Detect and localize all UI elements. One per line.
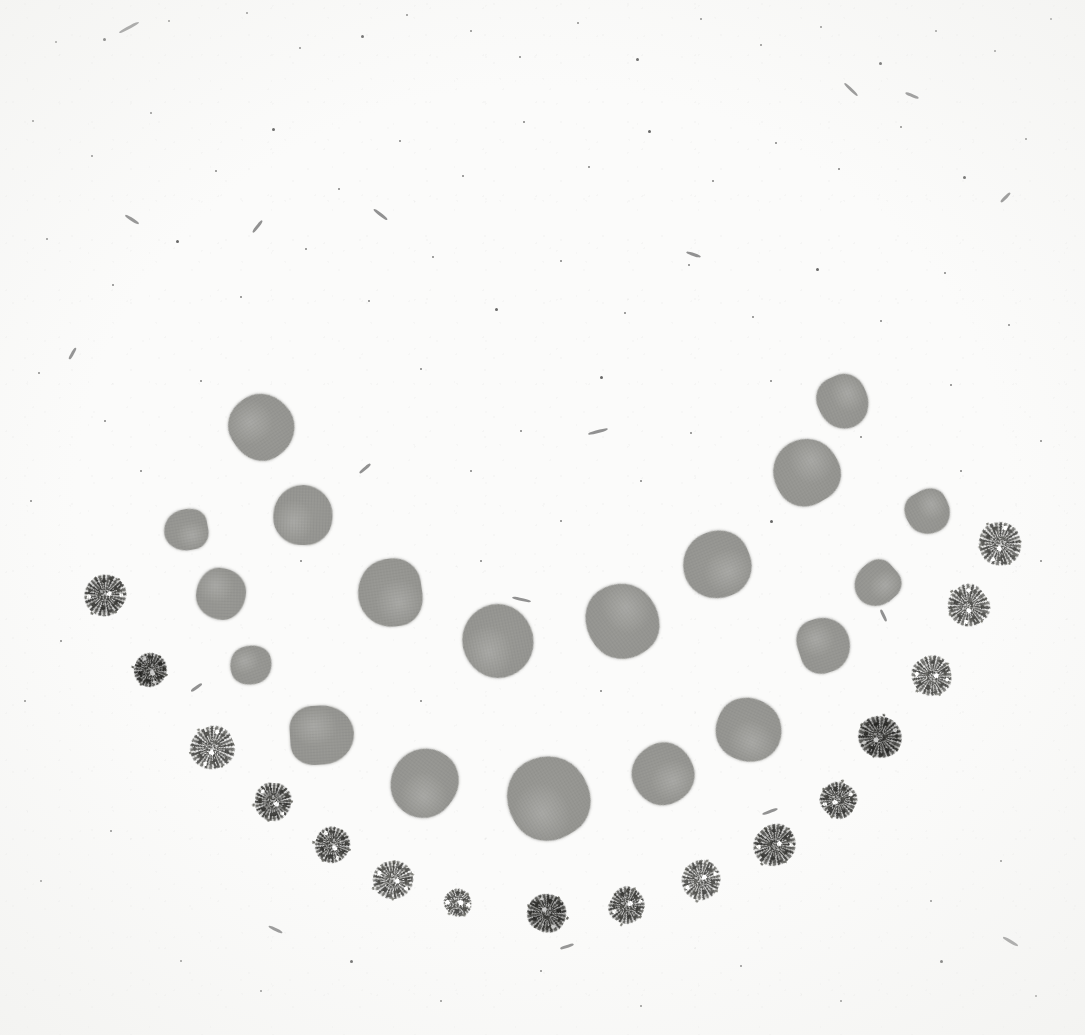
scan-speck bbox=[600, 376, 603, 379]
scan-speck bbox=[900, 126, 902, 128]
scan-speck bbox=[176, 240, 179, 243]
speckled-dot bbox=[746, 816, 804, 874]
scan-speck bbox=[820, 26, 822, 28]
dot-array-plate bbox=[0, 0, 1085, 1035]
scan-speck bbox=[880, 320, 882, 322]
scan-speck bbox=[32, 120, 34, 122]
scan-fiber bbox=[905, 91, 919, 99]
scan-fiber bbox=[373, 208, 388, 221]
scan-speck bbox=[624, 312, 626, 314]
scan-speck bbox=[840, 1000, 842, 1002]
speckled-dot bbox=[905, 649, 959, 704]
smooth-dot bbox=[809, 367, 877, 437]
scan-speck bbox=[1040, 560, 1042, 562]
scan-speck bbox=[46, 238, 48, 240]
scan-speck bbox=[38, 372, 40, 374]
scan-speck bbox=[368, 300, 370, 302]
scan-speck bbox=[588, 166, 590, 168]
scan-speck bbox=[361, 35, 364, 38]
scan-speck bbox=[40, 880, 42, 882]
scan-speck bbox=[55, 41, 57, 43]
scan-speck bbox=[688, 264, 690, 266]
scan-fiber bbox=[560, 943, 574, 950]
smooth-dot bbox=[846, 553, 909, 615]
scan-speck bbox=[432, 256, 434, 258]
scan-speck bbox=[770, 380, 772, 382]
smooth-dot bbox=[761, 427, 852, 517]
scan-speck bbox=[110, 830, 112, 832]
scan-speck bbox=[350, 960, 353, 963]
scan-speck bbox=[470, 470, 472, 472]
scan-speck bbox=[338, 188, 340, 190]
scan-speck bbox=[180, 960, 182, 962]
scan-speck bbox=[560, 260, 562, 262]
scan-fiber bbox=[843, 82, 858, 97]
scan-speck bbox=[712, 180, 714, 182]
speckled-dot bbox=[603, 882, 650, 930]
scan-fiber bbox=[268, 925, 283, 934]
scan-speck bbox=[560, 520, 562, 522]
scan-speck bbox=[60, 640, 62, 642]
scan-speck bbox=[168, 20, 170, 22]
scan-speck bbox=[600, 690, 602, 692]
scan-speck bbox=[1000, 860, 1002, 862]
scan-speck bbox=[640, 1005, 642, 1007]
scan-speck bbox=[1050, 18, 1052, 20]
scan-speck bbox=[150, 112, 152, 114]
scan-speck bbox=[420, 368, 422, 370]
speckled-dot bbox=[184, 720, 241, 776]
scan-speck bbox=[935, 30, 937, 32]
speckled-dot bbox=[814, 777, 862, 824]
speckled-dot bbox=[521, 887, 573, 938]
scan-speck bbox=[879, 62, 882, 65]
scan-speck bbox=[775, 142, 777, 144]
scan-speck bbox=[816, 268, 819, 271]
smooth-dot bbox=[288, 704, 355, 767]
scan-speck bbox=[960, 470, 962, 472]
speckled-dot bbox=[76, 566, 134, 624]
scan-speck bbox=[30, 500, 32, 502]
scan-speck bbox=[299, 47, 301, 49]
speckled-dot bbox=[439, 884, 477, 922]
smooth-dot bbox=[706, 688, 792, 773]
scan-speck bbox=[540, 970, 542, 972]
scan-speck bbox=[470, 30, 472, 32]
scan-speck bbox=[1035, 995, 1037, 997]
scan-speck bbox=[519, 56, 521, 58]
scan-speck bbox=[950, 384, 952, 386]
smooth-dot bbox=[353, 555, 426, 631]
scan-speck bbox=[930, 900, 932, 902]
scan-speck bbox=[648, 130, 651, 133]
scan-speck bbox=[260, 990, 262, 992]
scan-speck bbox=[112, 284, 114, 286]
scan-speck bbox=[440, 1000, 442, 1002]
scan-speck bbox=[636, 58, 639, 61]
scan-speck bbox=[520, 430, 522, 432]
scan-fiber bbox=[124, 214, 139, 225]
speckled-dot bbox=[973, 516, 1028, 571]
scan-fiber bbox=[686, 251, 701, 258]
scan-fiber bbox=[68, 347, 77, 360]
smooth-dot bbox=[898, 482, 958, 542]
smooth-dot bbox=[624, 735, 703, 814]
smooth-dot bbox=[195, 567, 246, 621]
scan-speck bbox=[420, 700, 422, 702]
smooth-dot bbox=[673, 521, 761, 609]
smooth-dot bbox=[272, 484, 333, 546]
scan-speck bbox=[24, 700, 26, 702]
scan-speck bbox=[690, 432, 692, 434]
scan-fiber bbox=[762, 807, 778, 815]
scan-fiber bbox=[119, 21, 140, 34]
smooth-dot bbox=[225, 640, 277, 691]
scan-speck bbox=[495, 308, 498, 311]
scan-speck bbox=[91, 155, 93, 157]
speckled-dot bbox=[370, 858, 417, 903]
speckled-dot bbox=[128, 648, 171, 692]
scan-speck bbox=[963, 176, 966, 179]
speckled-dot bbox=[940, 578, 997, 635]
scan-speck bbox=[760, 44, 762, 46]
smooth-dot bbox=[791, 611, 858, 680]
scan-speck bbox=[462, 175, 464, 177]
scan-speck bbox=[944, 272, 946, 274]
scan-fiber bbox=[588, 427, 608, 435]
